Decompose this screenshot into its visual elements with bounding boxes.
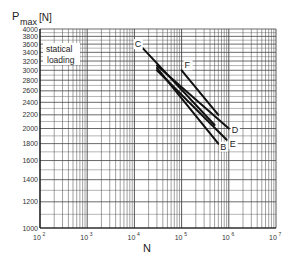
y-tick-label: 1000 xyxy=(22,225,38,232)
y-tick-label: 2200 xyxy=(22,111,38,118)
y-tick-label: 2600 xyxy=(22,87,38,94)
y-tick-label: 1600 xyxy=(22,157,38,164)
x-tick-exponent: 3 xyxy=(90,231,93,237)
annotation-statical: statical xyxy=(46,44,73,54)
series-label-C: C xyxy=(135,39,142,49)
y-tick-label: 3000 xyxy=(22,67,38,74)
y-axis-label-sub: max xyxy=(20,17,38,27)
y-axis-unit: [N] xyxy=(39,12,52,23)
x-tick-exponent: 4 xyxy=(137,231,140,237)
series-line-C xyxy=(143,48,215,125)
y-tick-label: 2400 xyxy=(22,99,38,106)
y-tick-label: 3800 xyxy=(22,33,38,40)
y-tick-label: 1800 xyxy=(22,140,38,147)
y-tick-label: 2800 xyxy=(22,77,38,84)
y-tick-label: 1400 xyxy=(22,176,38,183)
x-tick-label: 10 xyxy=(222,234,230,241)
x-tick-label: 10 xyxy=(269,234,277,241)
x-axis-label: N xyxy=(143,242,151,254)
y-axis-label: P xyxy=(12,10,19,22)
series-label-D: D xyxy=(232,125,239,135)
chart: 1000120014001600180020002200240026002800… xyxy=(0,0,297,263)
annotation-loading: loading xyxy=(47,55,75,65)
x-tick-exponent: 5 xyxy=(184,231,187,237)
y-tick-label: 3400 xyxy=(22,49,38,56)
y-tick-label: 3200 xyxy=(22,58,38,65)
x-tick-label: 10 xyxy=(128,234,136,241)
x-tick-exponent: 7 xyxy=(279,231,282,237)
series-label-F: F xyxy=(185,60,191,70)
y-tick-label: 3600 xyxy=(22,41,38,48)
x-tick-exponent: 2 xyxy=(43,231,46,237)
labels: 1000120014001600180020002200240026002800… xyxy=(12,10,282,254)
y-tick-label: 2000 xyxy=(22,125,38,132)
x-tick-label: 10 xyxy=(80,234,88,241)
x-tick-exponent: 6 xyxy=(231,231,234,237)
series-label-E: E xyxy=(230,139,236,149)
x-tick-label: 10 xyxy=(33,234,41,241)
series-label-B: B xyxy=(220,142,226,152)
y-tick-label: 1200 xyxy=(22,198,38,205)
x-tick-label: 10 xyxy=(175,234,183,241)
